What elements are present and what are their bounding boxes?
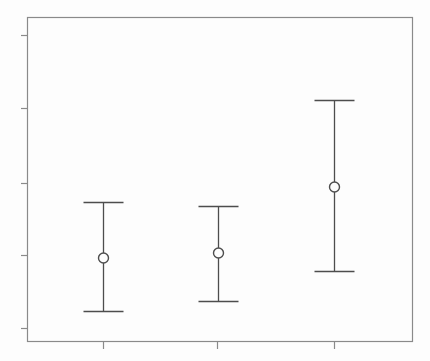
data-point-marker-2 bbox=[214, 248, 224, 258]
data-point-marker-1 bbox=[99, 253, 109, 263]
data-point-marker-3 bbox=[330, 182, 340, 192]
plot-area-background bbox=[27, 17, 413, 342]
errorbar-chart bbox=[0, 0, 430, 361]
chart-container bbox=[0, 0, 430, 361]
